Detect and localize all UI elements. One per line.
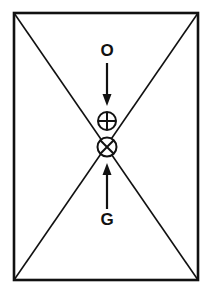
diagram-canvas: O G <box>0 0 212 295</box>
figure-container: O G <box>0 0 212 295</box>
label-g: G <box>100 210 113 229</box>
circled-cross-icon <box>98 138 117 157</box>
circled-plus-icon <box>98 112 116 130</box>
label-o: O <box>100 41 113 60</box>
